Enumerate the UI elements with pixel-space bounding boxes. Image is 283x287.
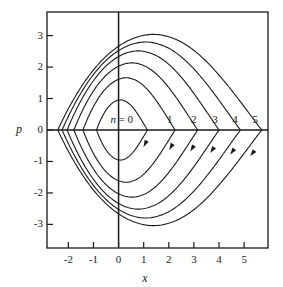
y-tick-label-2: 2: [17, 61, 43, 72]
x-tick-label--2: -2: [56, 254, 80, 265]
phase-space-plot: [0, 0, 283, 287]
curve-label-n0: n = 0: [110, 114, 133, 125]
x-tick-label-5: 5: [232, 254, 256, 265]
y-tick-label-1: 1: [17, 93, 43, 104]
y-tick-label--2: -2: [17, 187, 43, 198]
equals-sign: =: [116, 113, 128, 125]
curve-label-n5: 5: [252, 114, 258, 125]
curve-label-value: 0: [128, 113, 134, 125]
direction-arrow-n2: [190, 144, 196, 151]
figure-container: -2-10123453210-1-2-3xpn = 012345: [0, 0, 283, 287]
direction-arrow-n0: [143, 140, 148, 147]
curve-label-n2: 2: [191, 114, 197, 125]
direction-arrow-n5: [250, 149, 256, 156]
y-tick-label--1: -1: [17, 155, 43, 166]
curve-label-n4: 4: [232, 114, 238, 125]
direction-arrow-n1: [169, 143, 174, 150]
y-tick-label-3: 3: [17, 30, 43, 41]
x-tick-label-4: 4: [207, 254, 231, 265]
x-tick-label-0: 0: [107, 254, 131, 265]
direction-arrow-n3: [210, 146, 216, 153]
x-tick-label--1: -1: [81, 254, 105, 265]
y-tick-label--3: -3: [17, 218, 43, 229]
x-tick-label-3: 3: [182, 254, 206, 265]
direction-arrow-n4: [230, 148, 236, 155]
x-tick-label-2: 2: [157, 254, 181, 265]
curve-label-n1: 1: [167, 114, 173, 125]
x-tick-label-1: 1: [132, 254, 156, 265]
y-axis-title: p: [16, 123, 22, 135]
x-axis-title: x: [142, 272, 147, 284]
curve-label-n3: 3: [212, 114, 218, 125]
